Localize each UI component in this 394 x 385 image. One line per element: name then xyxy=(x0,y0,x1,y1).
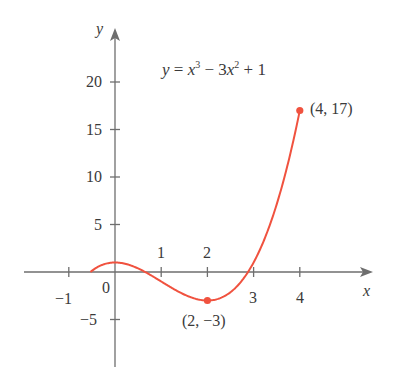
x-tick-label: 2 xyxy=(203,245,211,261)
y-tick-label: 20 xyxy=(86,74,102,90)
y-tick-label: −5 xyxy=(80,312,97,328)
point-marker xyxy=(204,297,211,304)
y-tick-label: 10 xyxy=(86,169,102,185)
point-marker xyxy=(296,107,303,114)
x-tick-label: −1 xyxy=(55,291,72,307)
x-tick-label: 1 xyxy=(157,245,165,261)
x-axis-label: x xyxy=(363,283,370,299)
point-label-end: (4, 17) xyxy=(310,101,353,117)
y-tick-label: 15 xyxy=(86,122,102,138)
y-axis-label: y xyxy=(96,21,103,37)
x-tick-label: 3 xyxy=(249,290,257,306)
origin-label: 0 xyxy=(102,280,110,296)
equation-label: y = x3 − 3x2 + 1 xyxy=(162,59,266,80)
x-tick-label: 4 xyxy=(296,290,304,306)
y-tick-label: 5 xyxy=(94,217,102,233)
point-label-min: (2, −3) xyxy=(182,313,226,329)
